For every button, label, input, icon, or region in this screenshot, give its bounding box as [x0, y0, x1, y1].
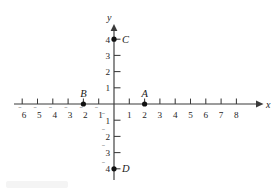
x-tick-label: 4	[173, 110, 178, 120]
point-label-c: C	[122, 34, 130, 45]
data-point-d	[111, 166, 116, 171]
y-tick-label: 3	[105, 51, 110, 61]
x-tick-label: 8	[234, 110, 239, 120]
x-tick-label: 7	[219, 110, 224, 120]
x-tick-label: ⁻5	[33, 105, 42, 120]
y-tick-label: 4	[105, 35, 110, 45]
coordinate-plane-figure: x y ⁻6⁻5⁻4⁻3⁻2⁻112345678 4321⁻1⁻2⁻3⁻4 AB…	[0, 0, 276, 191]
y-tick-label: ⁻4	[102, 160, 111, 175]
x-tick-label: 2	[142, 110, 147, 120]
y-tick-label: 2	[105, 67, 110, 77]
y-axis-arrow-icon	[111, 24, 118, 31]
y-tick-label: 1	[105, 83, 110, 93]
coordinate-plane-svg: x y ⁻6⁻5⁻4⁻3⁻2⁻112345678 4321⁻1⁻2⁻3⁻4 AB…	[0, 0, 276, 191]
x-tick-group: ⁻6⁻5⁻4⁻3⁻2⁻112345678	[18, 99, 239, 120]
y-tick-label: ⁻3	[102, 143, 111, 158]
y-axis-label: y	[106, 12, 112, 23]
x-tick-label: 3	[158, 110, 163, 120]
x-axis-arrow-icon	[256, 101, 264, 108]
data-point-b	[81, 101, 86, 106]
x-tick-label: ⁻4	[49, 105, 58, 120]
point-label-a: A	[140, 88, 148, 99]
x-tick-label: 6	[204, 110, 209, 120]
data-point-c	[111, 37, 116, 42]
x-axis-label: x	[265, 99, 271, 110]
x-tick-label: ⁻6	[18, 105, 27, 120]
data-point-a	[142, 101, 147, 106]
x-tick-label: ⁻2	[79, 105, 88, 120]
x-tick-label: ⁻3	[64, 105, 73, 120]
y-tick-label: ⁻1	[102, 111, 111, 126]
x-tick-label: 1	[127, 110, 132, 120]
axis-group	[14, 24, 264, 180]
x-tick-label: 5	[188, 110, 193, 120]
y-tick-label: ⁻2	[102, 127, 111, 142]
point-label-d: D	[121, 163, 130, 174]
point-label-b: B	[80, 88, 87, 99]
